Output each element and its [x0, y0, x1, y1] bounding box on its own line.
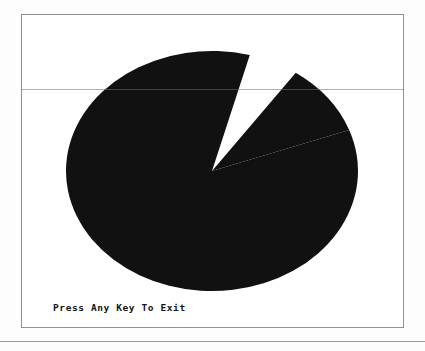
pie-chart-canvas	[22, 15, 403, 327]
dos-screen-frame: Press Any Key To Exit	[21, 14, 404, 328]
page-bottom-rule	[0, 341, 425, 342]
press-any-key-prompt: Press Any Key To Exit	[53, 303, 186, 313]
pie-chart-svg	[22, 15, 403, 327]
screenshot-root: Press Any Key To Exit	[0, 0, 425, 351]
